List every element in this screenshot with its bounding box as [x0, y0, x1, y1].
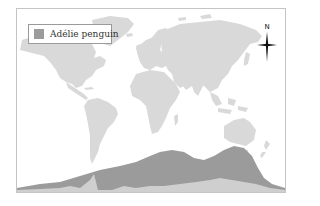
compass-star-icon [257, 24, 277, 64]
compass-rose: N [257, 24, 277, 64]
south-america [84, 98, 118, 164]
africa [130, 70, 180, 134]
legend-swatch [34, 29, 44, 39]
legend: Adélie penguin [28, 24, 112, 44]
australia [224, 118, 256, 146]
legend-label: Adélie penguin [50, 30, 119, 39]
